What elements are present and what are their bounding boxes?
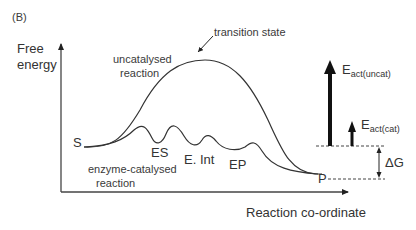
es-label: ES	[151, 146, 168, 161]
e-act-cat-label: Eact(cat)	[361, 118, 400, 134]
e-act-cat-sub: act(cat)	[370, 124, 400, 134]
delta-g-label: ΔG	[385, 156, 404, 171]
uncatalysed-label-line2: reaction	[120, 67, 159, 80]
e-int-label: E. Int	[184, 153, 214, 168]
y-axis-label-line2: energy	[17, 58, 57, 73]
y-axis-label-line1: Free	[17, 42, 44, 57]
transition-state-arrow	[198, 36, 213, 52]
substrate-label: S	[73, 136, 82, 151]
catalysed-label-line1: enzyme-catalysed	[88, 163, 177, 176]
transition-state-label: transition state	[214, 26, 286, 39]
product-label: P	[318, 172, 327, 187]
e-act-cat-main: E	[361, 117, 370, 132]
x-axis-label: Reaction co-ordinate	[246, 206, 366, 221]
ep-label: EP	[229, 158, 246, 173]
e-act-uncat-main: E	[342, 62, 351, 77]
uncatalysed-label-line1: uncatalysed	[113, 53, 172, 66]
e-act-uncat-sub: act(uncat)	[351, 69, 391, 79]
e-act-uncat-label: Eact(uncat)	[342, 63, 391, 79]
energy-diagram	[0, 0, 416, 230]
panel-label: (B)	[12, 11, 27, 24]
catalysed-label-line2: reaction	[96, 177, 135, 190]
